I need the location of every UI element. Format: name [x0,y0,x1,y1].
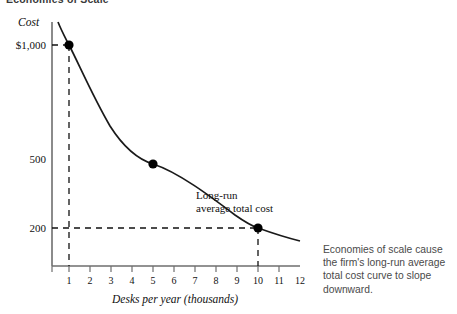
curve-annotation-line1: Long-run [196,189,238,201]
y-axis-title: Cost [18,16,40,28]
x-tick-label-10: 10 [253,275,263,286]
x-tick-label-8: 8 [214,275,219,286]
y-tick-label-1000: $1,000 [16,39,47,51]
x-tick-label-7: 7 [193,275,198,286]
x-tick-marks [52,266,279,272]
data-point-2 [148,159,157,168]
x-axis-title: Desks per year (thousands) [111,293,238,306]
data-point-1 [64,40,73,49]
y-tick-label-500: 500 [30,153,47,165]
figure-economies-of-scale: Economies of Scale Cost Desks per year (… [0,0,457,314]
y-tick-label-200: 200 [30,222,47,234]
x-tick-label-1: 1 [67,275,72,286]
x-tick-label-6: 6 [172,275,177,286]
figure-caption: Economies of scale cause the firm's long… [323,243,455,296]
x-tick-label-3: 3 [109,275,114,286]
x-tick-label-5: 5 [151,275,156,286]
x-tick-label-4: 4 [130,275,135,286]
x-tick-label-9: 9 [235,275,240,286]
data-point-3 [253,223,262,232]
curve-annotation-line2: average total cost [196,202,273,214]
x-tick-label-11: 11 [274,275,284,286]
x-tick-label-12: 12 [295,275,305,286]
x-tick-label-2: 2 [88,275,93,286]
